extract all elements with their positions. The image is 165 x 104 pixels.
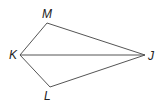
segment-jl <box>50 55 145 87</box>
vertex-label-j: J <box>147 49 155 63</box>
segment-mj <box>47 23 145 55</box>
vertex-label-m: M <box>42 7 52 21</box>
segment-lk <box>20 55 50 87</box>
segment-km <box>20 23 47 55</box>
vertex-label-l: L <box>44 89 51 103</box>
vertex-label-k: K <box>9 48 18 62</box>
kite-diagram: M K L J <box>0 0 165 104</box>
